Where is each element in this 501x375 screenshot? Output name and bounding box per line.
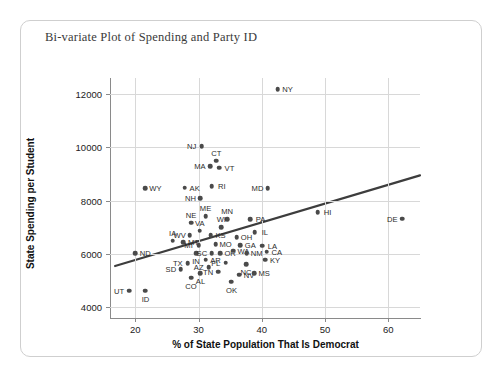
data-point-label: NJ bbox=[187, 142, 196, 151]
data-point-label: MI bbox=[184, 241, 192, 250]
gridline-horizontal bbox=[110, 307, 420, 308]
data-point[interactable] bbox=[199, 144, 204, 149]
x-tick bbox=[388, 318, 389, 322]
chart-title: Bi-variate Plot of Spending and Party ID bbox=[45, 30, 257, 45]
y-tick bbox=[106, 201, 110, 202]
y-tick-label: 8000 bbox=[42, 195, 102, 206]
plot-area bbox=[110, 78, 420, 318]
data-point-label: HI bbox=[324, 208, 332, 217]
data-point[interactable] bbox=[231, 249, 236, 254]
y-tick-label: 4000 bbox=[42, 302, 102, 313]
data-point[interactable] bbox=[170, 238, 175, 243]
data-point[interactable] bbox=[208, 233, 213, 238]
data-point-label: FL bbox=[211, 258, 220, 267]
x-tick bbox=[325, 318, 326, 322]
data-point[interactable] bbox=[234, 235, 239, 240]
data-point[interactable] bbox=[189, 220, 194, 225]
data-point[interactable] bbox=[229, 279, 234, 284]
data-point-label: TN bbox=[203, 267, 213, 276]
y-tick bbox=[106, 307, 110, 308]
gridline-vertical bbox=[325, 78, 326, 318]
data-point[interactable] bbox=[315, 210, 320, 215]
data-point[interactable] bbox=[244, 262, 249, 267]
data-point-label: DE bbox=[387, 214, 398, 223]
data-point[interactable] bbox=[216, 270, 221, 275]
data-point[interactable] bbox=[248, 217, 253, 222]
data-point[interactable] bbox=[133, 251, 138, 256]
data-point-label: ND bbox=[140, 249, 151, 258]
data-point[interactable] bbox=[143, 289, 148, 294]
data-point-label: KS bbox=[216, 231, 226, 240]
data-point-label: KY bbox=[270, 255, 280, 264]
data-point[interactable] bbox=[223, 260, 228, 265]
data-point-label: VA bbox=[195, 218, 205, 227]
x-tick-label: 50 bbox=[305, 324, 345, 335]
data-point-label: MD bbox=[252, 184, 264, 193]
x-tick bbox=[262, 318, 263, 322]
data-point[interactable] bbox=[252, 271, 257, 276]
data-point-label: AK bbox=[190, 183, 200, 192]
data-point[interactable] bbox=[182, 186, 187, 191]
y-tick bbox=[106, 94, 110, 95]
data-point-label: MO bbox=[220, 240, 232, 249]
data-point-label: OK bbox=[226, 285, 237, 294]
data-point[interactable] bbox=[400, 217, 405, 222]
data-point-label: NH bbox=[185, 194, 196, 203]
x-tick bbox=[135, 318, 136, 322]
data-point[interactable] bbox=[198, 228, 203, 233]
data-point[interactable] bbox=[198, 196, 203, 201]
data-point[interactable] bbox=[237, 272, 242, 277]
data-point[interactable] bbox=[275, 87, 280, 92]
y-axis-label: State Spending per Student bbox=[25, 114, 36, 294]
gridline-vertical bbox=[135, 78, 136, 318]
gridline-horizontal bbox=[110, 147, 420, 148]
x-tick bbox=[199, 318, 200, 322]
data-point-label: MS bbox=[259, 269, 270, 278]
x-tick-label: 40 bbox=[242, 324, 282, 335]
data-point-label: ID bbox=[142, 294, 150, 303]
gridline-vertical bbox=[262, 78, 263, 318]
data-point[interactable] bbox=[253, 230, 258, 235]
data-point[interactable] bbox=[263, 257, 268, 262]
data-point-label: RI bbox=[218, 182, 226, 191]
x-tick-label: 60 bbox=[368, 324, 408, 335]
data-point[interactable] bbox=[186, 261, 191, 266]
data-point-label: ME bbox=[200, 204, 211, 213]
x-axis-line bbox=[110, 318, 421, 319]
data-point[interactable] bbox=[244, 251, 249, 256]
data-point[interactable] bbox=[143, 186, 148, 191]
data-point[interactable] bbox=[208, 164, 213, 169]
y-tick-label: 12000 bbox=[42, 89, 102, 100]
data-point-label: UT bbox=[114, 286, 124, 295]
data-point[interactable] bbox=[219, 225, 224, 230]
data-point[interactable] bbox=[265, 250, 270, 255]
y-tick-label: 6000 bbox=[42, 249, 102, 260]
data-point-label: WY bbox=[149, 184, 161, 193]
data-point[interactable] bbox=[217, 166, 222, 171]
data-point[interactable] bbox=[214, 158, 219, 163]
data-point[interactable] bbox=[127, 289, 132, 294]
x-axis-label: % of State Population That Is Democrat bbox=[110, 339, 421, 350]
y-tick-label: 10000 bbox=[42, 142, 102, 153]
data-point-label: NY bbox=[282, 85, 293, 94]
data-point[interactable] bbox=[189, 275, 194, 280]
data-point[interactable] bbox=[198, 271, 203, 276]
x-tick-label: 30 bbox=[179, 324, 219, 335]
data-point[interactable] bbox=[260, 243, 265, 248]
data-point-label: CT bbox=[211, 148, 221, 157]
data-point-label: AL bbox=[196, 277, 205, 286]
gridline-horizontal bbox=[110, 201, 420, 202]
data-point-label: NM bbox=[251, 248, 263, 257]
data-point[interactable] bbox=[210, 184, 215, 189]
gridline-vertical bbox=[388, 78, 389, 318]
data-point-label: VT bbox=[225, 163, 235, 172]
data-point[interactable] bbox=[203, 258, 208, 263]
data-point[interactable] bbox=[179, 267, 184, 272]
data-point[interactable] bbox=[265, 186, 270, 191]
data-point-label: CO bbox=[185, 281, 196, 290]
y-tick bbox=[106, 147, 110, 148]
data-point[interactable] bbox=[196, 243, 201, 248]
data-point-label: IL bbox=[262, 228, 268, 237]
data-point[interactable] bbox=[213, 242, 218, 247]
data-point-label: PA bbox=[256, 215, 266, 224]
